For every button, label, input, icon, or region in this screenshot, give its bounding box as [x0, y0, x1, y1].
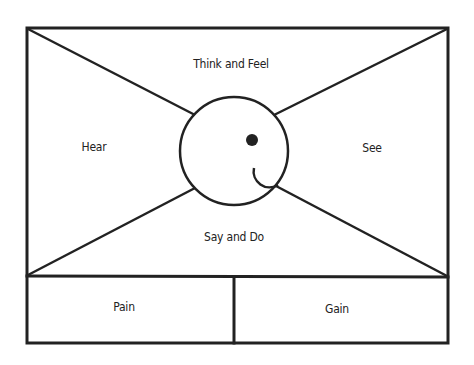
empathy-map-diagram — [0, 0, 474, 365]
quadrant-hear: Hear — [81, 140, 106, 154]
smiley-face-icon — [180, 97, 288, 205]
diagonal-top-right — [272, 29, 447, 116]
quadrant-think-and-feel: Think and Feel — [193, 57, 269, 71]
diagonal-top-left — [28, 29, 197, 116]
horizontal-divider — [27, 276, 448, 277]
box-pain: Pain — [113, 300, 135, 314]
quadrant-say-and-do: Say and Do — [204, 230, 264, 244]
quadrant-see: See — [362, 141, 382, 155]
diagonal-bottom-right — [276, 186, 447, 276]
box-gain: Gain — [325, 302, 349, 316]
diagonal-bottom-left — [28, 188, 195, 275]
